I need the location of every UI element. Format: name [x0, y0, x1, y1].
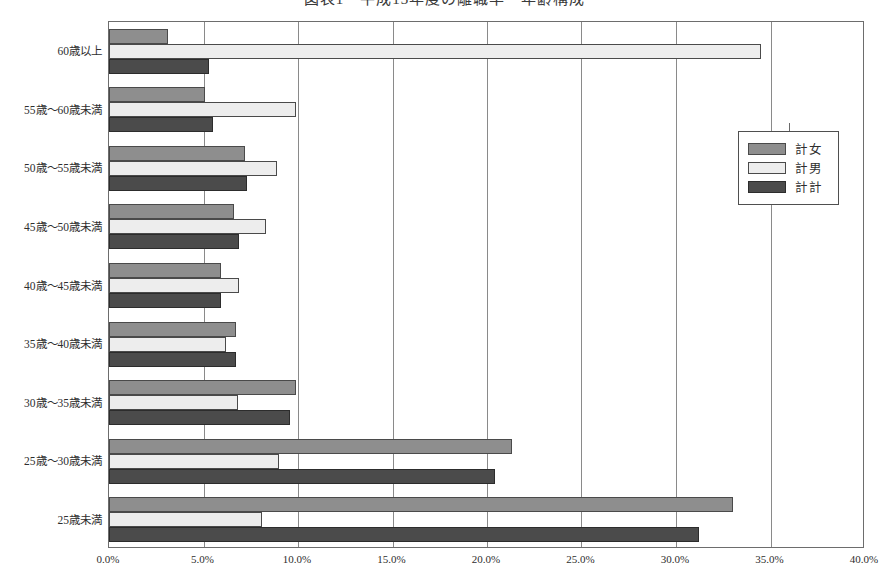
chart-legend[interactable]: 計女 計男 計計: [738, 131, 839, 205]
legend-swatch-icon-series-1: [748, 162, 786, 174]
bar-計女-25歳～30歳未満: [109, 439, 512, 454]
gridline-25: [581, 22, 582, 547]
y-axis-label-0: 60歳以上: [58, 42, 103, 58]
y-axis-label-4: 40歳～45歳未満: [24, 277, 102, 293]
x-tick-label-0: 0.0%: [97, 553, 120, 565]
legend-label-series-2: 計計: [795, 177, 823, 196]
x-tick-label-5: 25.0%: [566, 553, 594, 565]
bar-計女-55歳～60歳未満: [109, 87, 205, 102]
bar-計計-50歳～55歳未満: [109, 176, 247, 191]
x-tick-label-6: 30.0%: [661, 553, 689, 565]
bar-計男-30歳～35歳未満: [109, 395, 238, 410]
legend-item-0[interactable]: 計女: [748, 139, 830, 158]
y-axis-label-3: 45歳～50歳未満: [24, 218, 102, 234]
bar-計男-25歳未満: [109, 512, 262, 527]
bar-計女-40歳～45歳未満: [109, 263, 221, 278]
bar-計女-25歳未満: [109, 497, 733, 512]
bar-計男-35歳～40歳未満: [109, 337, 226, 352]
legend-swatch-icon-series-0: [748, 143, 786, 155]
legend-label-series-1: 計男: [795, 158, 823, 177]
bar-計計-25歳未満: [109, 527, 699, 542]
bar-計計-40歳～45歳未満: [109, 293, 221, 308]
bar-計計-25歳～30歳未満: [109, 469, 495, 484]
x-tick-label-3: 15.0%: [377, 553, 405, 565]
bar-計女-30歳～35歳未満: [109, 380, 296, 395]
y-axis-label-1: 55歳～60歳未満: [24, 101, 102, 117]
bar-計男-50歳～55歳未満: [109, 161, 277, 176]
x-tick-label-7: 35.0%: [755, 553, 783, 565]
bar-計計-55歳～60歳未満: [109, 117, 213, 132]
y-axis-label-5: 35歳～40歳未満: [24, 335, 102, 351]
gridline-35: [771, 22, 772, 547]
gridline-30: [676, 22, 677, 547]
bar-計男-25歳～30歳未満: [109, 454, 279, 469]
x-tick-label-4: 20.0%: [472, 553, 500, 565]
bar-計男-60歳以上: [109, 44, 761, 59]
bar-計女-60歳以上: [109, 29, 168, 44]
y-axis-label-2: 50歳～55歳未満: [24, 159, 102, 175]
bar-計女-35歳～40歳未満: [109, 322, 236, 337]
x-tick-label-1: 5.0%: [191, 553, 214, 565]
plot-area: [108, 21, 864, 548]
bar-計計-35歳～40歳未満: [109, 352, 236, 367]
legend-swatch-icon-series-2: [748, 181, 786, 193]
x-tick-label-2: 10.0%: [283, 553, 311, 565]
bar-計計-60歳以上: [109, 59, 209, 74]
y-axis-label-8: 25歳未満: [58, 511, 103, 527]
y-axis-label-6: 30歳～35歳未満: [24, 394, 102, 410]
bar-計男-45歳～50歳未満: [109, 219, 266, 234]
bar-計男-40歳～45歳未満: [109, 278, 239, 293]
bar-計女-45歳～50歳未満: [109, 204, 234, 219]
legend-label-series-0: 計女: [795, 139, 823, 158]
legend-item-1[interactable]: 計男: [748, 158, 830, 177]
x-tick-label-8: 40.0%: [850, 553, 878, 565]
bar-計男-55歳～60歳未満: [109, 102, 296, 117]
legend-item-2[interactable]: 計計: [748, 177, 830, 196]
y-axis-label-7: 25歳～30歳未満: [24, 452, 102, 468]
bar-計計-30歳～35歳未満: [109, 410, 290, 425]
bar-計女-50歳～55歳未満: [109, 146, 245, 161]
chart-title: 図表1 平成13年度の離職率・年齢構成: [0, 0, 889, 8]
bar-計計-45歳～50歳未満: [109, 234, 239, 249]
